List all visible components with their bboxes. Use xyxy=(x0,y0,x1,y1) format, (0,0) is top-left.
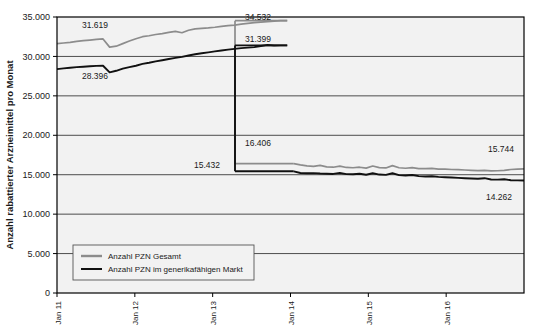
y-tick-label: 35.000 xyxy=(22,12,50,22)
data-value-label: 34.532 xyxy=(245,12,271,22)
x-tick-label: Jan 15 xyxy=(365,300,374,325)
y-tick-label: 0 xyxy=(45,288,50,298)
legend-label-gesamt: Anzahl PZN Gesamt xyxy=(108,252,182,261)
data-value-label: 16.406 xyxy=(245,138,271,148)
x-tick-label: Jan 12 xyxy=(131,300,140,325)
x-tick-label: Jan 13 xyxy=(209,300,218,325)
y-axis-title: Anzahl rabattierter Arzneimittel pro Mon… xyxy=(4,60,15,250)
x-tick-label: Jan 16 xyxy=(443,300,452,325)
y-tick-label: 30.000 xyxy=(22,52,50,62)
line-chart: 05.00010.00015.00020.00025.00030.00035.0… xyxy=(0,0,536,331)
legend[interactable]: Anzahl PZN Gesamt Anzahl PZN im generika… xyxy=(73,245,254,280)
y-tick-label: 15.000 xyxy=(22,170,50,180)
data-value-label: 15.432 xyxy=(194,160,220,170)
data-value-label: 15.744 xyxy=(488,144,514,154)
legend-label-generika: Anzahl PZN im generikafähigen Markt xyxy=(108,265,244,274)
y-tick-label: 25.000 xyxy=(22,91,50,101)
y-tick-label: 20.000 xyxy=(22,130,50,140)
x-tick-label: Jan 14 xyxy=(287,300,296,325)
chart-root: 05.00010.00015.00020.00025.00030.00035.0… xyxy=(0,0,536,331)
legend-box xyxy=(73,245,254,280)
y-tick-label: 10.000 xyxy=(22,209,50,219)
data-value-label: 14.262 xyxy=(486,192,512,202)
y-tick-label: 5.000 xyxy=(27,249,50,259)
data-value-label: 31.399 xyxy=(245,34,271,44)
data-value-label: 31.619 xyxy=(82,20,108,30)
x-tick-label: Jan 11 xyxy=(54,300,63,324)
data-value-label: 28.396 xyxy=(82,71,108,81)
